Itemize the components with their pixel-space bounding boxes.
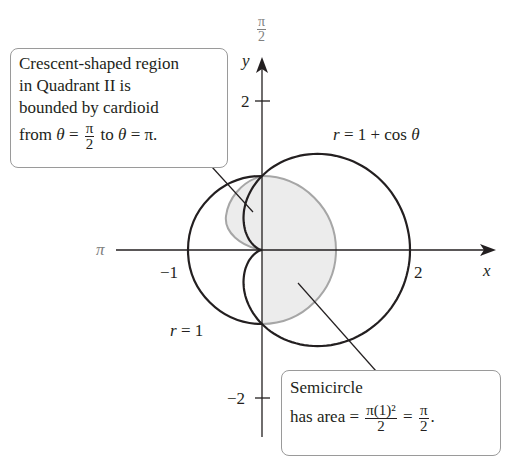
semicircle-leader-line xyxy=(298,283,376,371)
circle-label: r = 1 xyxy=(170,322,203,339)
y-axis-label: y xyxy=(242,52,250,69)
pi-label: π xyxy=(96,241,105,258)
crescent-callout-line2: in Quadrant II is xyxy=(19,75,219,97)
tick-label-y-2: 2 xyxy=(241,93,250,110)
crescent-callout-line1: Crescent-shaped region xyxy=(19,53,219,75)
crescent-callout-line3: bounded by cardioid xyxy=(19,97,219,119)
pi-over-2-label: π 2 xyxy=(255,15,268,44)
crescent-callout: Crescent-shaped region in Quadrant II is… xyxy=(10,48,228,168)
cardioid-label: r = 1 + cos θ xyxy=(333,126,420,143)
tick-label-x-2: 2 xyxy=(414,264,423,281)
semicircle-callout: Semicircle has area = π(1)²2 = π2. xyxy=(281,370,501,456)
x-axis-label: x xyxy=(483,262,491,279)
semicircle-callout-line2: has area = π(1)²2 = π2. xyxy=(290,403,492,434)
semicircle-callout-line1: Semicircle xyxy=(290,377,492,399)
crescent-callout-line4: from θ = π2 to θ = π. xyxy=(19,121,219,152)
tick-label-x-neg1: −1 xyxy=(160,264,178,281)
tick-label-y-neg2: −2 xyxy=(227,390,245,407)
